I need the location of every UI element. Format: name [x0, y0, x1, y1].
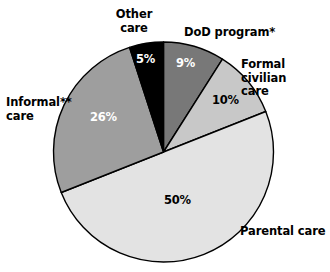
slice-value-informal-care: 26% — [90, 110, 117, 124]
slice-label-parental-care: Parental care — [240, 225, 330, 239]
slice-value-dod-program: 9% — [176, 56, 195, 70]
slice-value-formal-civilian-care: 10% — [212, 93, 239, 107]
slice-label-dod-program: DoD program* — [184, 26, 280, 40]
pie-chart-figure: Other care DoD program* Formal civilian … — [0, 0, 330, 272]
slice-value-other-care: 5% — [136, 52, 155, 66]
slice-label-informal-care: Informal** care — [6, 96, 86, 123]
slice-label-other-care: Other care — [106, 8, 162, 35]
slice-value-parental-care: 50% — [164, 193, 191, 207]
slice-label-formal-civilian-care: Formal civilian care — [241, 58, 329, 99]
